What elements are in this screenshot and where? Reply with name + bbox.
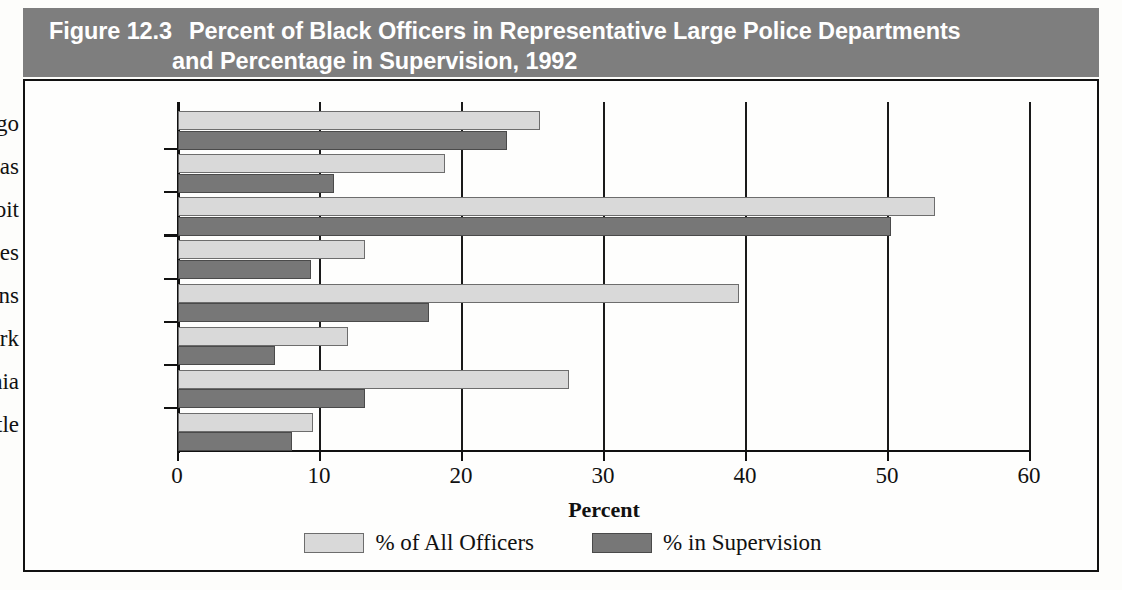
category-tick xyxy=(164,364,177,366)
legend-swatch-1 xyxy=(304,533,364,553)
bar-row: Seattle xyxy=(177,407,1029,450)
legend-item-2: % in Supervision xyxy=(592,530,821,556)
x-tick-50 xyxy=(887,450,889,461)
legend-label-2: % in Supervision xyxy=(663,530,821,556)
gridline-60 xyxy=(1029,102,1031,453)
bar-row: Los Angeles xyxy=(177,234,1029,277)
bar-row: Chicago xyxy=(177,105,1029,148)
x-axis-title: Percent xyxy=(177,497,1031,523)
category-label-seattle: Seattle xyxy=(0,412,19,438)
figure-number: Figure 12.3 xyxy=(49,18,172,44)
x-tick-20 xyxy=(461,450,463,461)
x-tick-label-60: 60 xyxy=(1018,463,1041,489)
x-tick-label-10: 10 xyxy=(308,463,331,489)
bar-chicago-series-2 xyxy=(178,131,507,150)
figure-title-text-1: Percent of Black Officers in Representat… xyxy=(189,18,961,44)
bar-dallas-series-2 xyxy=(178,174,334,193)
x-tick-label-20: 20 xyxy=(450,463,473,489)
category-label-detroit: Detroit xyxy=(0,197,19,223)
x-tick-0 xyxy=(177,450,179,461)
bar-seattle-series-2 xyxy=(178,432,292,451)
category-tick xyxy=(164,148,177,150)
category-label-dallas: Dallas xyxy=(0,154,19,180)
category-tick xyxy=(164,321,177,323)
bar-philadelphia-series-1 xyxy=(178,370,569,389)
bar-new-orleans-series-1 xyxy=(178,284,739,303)
legend-item-1: % of All Officers xyxy=(304,530,534,556)
figure-title-line-2: and Percentage in Supervision, 1992 xyxy=(23,46,1099,76)
bar-new-york-series-2 xyxy=(178,346,275,365)
x-tick-60 xyxy=(1029,450,1031,461)
category-label-chicago: Chicago xyxy=(0,111,19,137)
x-tick-30 xyxy=(603,450,605,461)
bar-new-orleans-series-2 xyxy=(178,303,429,322)
category-tick xyxy=(164,278,177,280)
x-tick-40 xyxy=(745,450,747,461)
chart-legend: % of All Officers% in Supervision xyxy=(25,530,1101,556)
bar-row: New Orleans xyxy=(177,278,1029,321)
bar-seattle-series-1 xyxy=(178,413,313,432)
bar-los-angeles-series-2 xyxy=(178,260,311,279)
category-label-new-orleans: New Orleans xyxy=(0,283,19,309)
category-label-philadelphia: Philadelphia xyxy=(0,369,19,395)
bar-row: New York xyxy=(177,321,1029,364)
legend-label-1: % of All Officers xyxy=(375,530,534,556)
bar-detroit-series-1 xyxy=(178,197,935,216)
bar-dallas-series-1 xyxy=(178,154,445,173)
category-tick xyxy=(164,234,177,236)
bar-row: Dallas xyxy=(177,148,1029,191)
chart-frame: 0102030405060 ChicagoDallasDetroitLos An… xyxy=(23,79,1099,572)
x-tick-label-50: 50 xyxy=(876,463,899,489)
category-label-new-york: New York xyxy=(0,326,19,352)
category-tick xyxy=(164,191,177,193)
figure-title-banner: Figure 12.3Percent of Black Officers in … xyxy=(23,8,1099,77)
bar-row: Detroit xyxy=(177,191,1029,234)
x-tick-label-40: 40 xyxy=(734,463,757,489)
x-tick-label-0: 0 xyxy=(171,463,183,489)
x-tick-10 xyxy=(319,450,321,461)
bar-los-angeles-series-1 xyxy=(178,240,365,259)
x-tick-label-30: 30 xyxy=(592,463,615,489)
bar-row: Philadelphia xyxy=(177,364,1029,407)
category-label-los-angeles: Los Angeles xyxy=(0,240,19,266)
bar-chicago-series-1 xyxy=(178,111,540,130)
bar-detroit-series-2 xyxy=(178,217,891,236)
legend-swatch-2 xyxy=(592,533,652,553)
category-tick xyxy=(164,407,177,409)
figure-title-line-1: Figure 12.3Percent of Black Officers in … xyxy=(23,16,1099,46)
plot-area: 0102030405060 ChicagoDallasDetroitLos An… xyxy=(177,105,1029,450)
bar-new-york-series-1 xyxy=(178,327,348,346)
figure-page: Figure 12.3Percent of Black Officers in … xyxy=(0,0,1122,590)
bar-philadelphia-series-2 xyxy=(178,389,365,408)
